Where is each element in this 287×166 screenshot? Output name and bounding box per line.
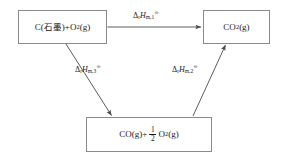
reactants-prefix: C(	[35, 23, 44, 32]
enthalpy-label-1: ΔrHm,1⦵	[133, 9, 159, 21]
fraction-denominator: 2	[150, 135, 156, 143]
standard-state-symbol-1: ⦵	[154, 8, 159, 15]
node-reactants: C(石墨)+O2(g)	[18, 10, 107, 44]
enthalpy-label-3: ΔrHm,3⦵	[75, 63, 101, 75]
one-half-fraction: 12	[149, 126, 156, 143]
graphite-cjk-text: 石墨	[44, 23, 62, 32]
molar-subscript-3: m,3	[88, 68, 96, 74]
molar-subscript-1: m,1	[146, 14, 154, 20]
node-intermediate: CO(g)+12O2(g)	[86, 117, 212, 152]
molar-subscript-2: m,2	[185, 68, 193, 74]
fraction-numerator: 1	[150, 126, 156, 134]
product-suffix: (g)	[239, 23, 250, 32]
standard-state-symbol-3: ⦵	[96, 62, 101, 69]
product-prefix: CO	[223, 23, 236, 32]
reactants-suffix: (g)	[80, 23, 91, 32]
arrow-reactants-to-intermediate-line	[66, 44, 112, 116]
node-intermediate-label: CO(g)+12O2(g)	[119, 126, 178, 143]
intermediate-suffix: (g)	[168, 130, 179, 139]
thermochemical-cycle-diagram: C(石墨)+O2(g) CO2(g) CO(g)+12O2(g) ΔrHm,1⦵…	[0, 0, 287, 166]
reactants-middle: )+O	[62, 23, 77, 32]
intermediate-prefix: CO(g)+	[119, 130, 147, 139]
node-product-label: CO2(g)	[223, 23, 249, 32]
standard-state-symbol-2: ⦵	[193, 62, 198, 69]
enthalpy-label-2: ΔrHm,2⦵	[172, 63, 198, 75]
arrow-intermediate-to-product-line	[193, 45, 226, 116]
node-reactants-label: C(石墨)+O2(g)	[35, 23, 90, 32]
node-product: CO2(g)	[203, 10, 270, 44]
